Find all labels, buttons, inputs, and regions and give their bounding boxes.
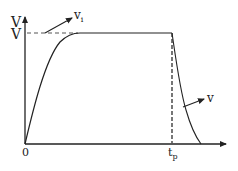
- pulse-diagram: V V vi v 0 tp: [0, 0, 238, 171]
- vi-pointer-arrow: [45, 18, 72, 33]
- v-level-label: V: [10, 26, 22, 42]
- output-decay-curve: [172, 33, 201, 144]
- output-label: v: [206, 91, 214, 105]
- origin-label: 0: [22, 146, 29, 159]
- v-pointer-arrow: [183, 99, 204, 107]
- tp-label-sub: p: [172, 152, 177, 161]
- input-label: vi: [73, 8, 84, 24]
- input-label-sub: i: [81, 15, 84, 24]
- tp-label: tp: [168, 146, 178, 161]
- input-pulse-curve: [25, 33, 172, 144]
